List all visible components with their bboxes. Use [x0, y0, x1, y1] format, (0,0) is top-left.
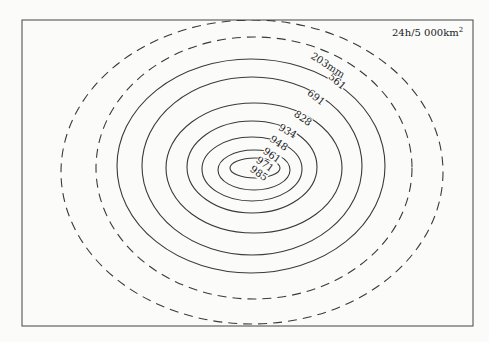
- isohyet-contour-diagram: 203mm561691828934948961971985 24h/5 000k…: [0, 0, 489, 342]
- contour-line-691: [117, 59, 385, 273]
- diagram-frame: [22, 20, 473, 326]
- unit-label: 24h/5 000km2: [392, 26, 463, 38]
- contour-label-691: 691: [305, 87, 327, 107]
- contour-label-203mm: 203mm: [309, 50, 347, 80]
- contour-labels: 203mm561691828934948961971985: [248, 50, 348, 183]
- contour-label-828: 828: [292, 108, 314, 128]
- contour-label-561: 561: [326, 71, 348, 92]
